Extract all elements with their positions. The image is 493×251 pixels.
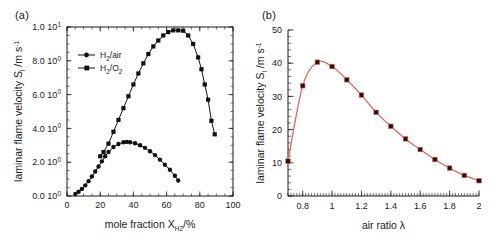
- data-point: [86, 179, 90, 183]
- data-point: [203, 82, 207, 86]
- data-point: [389, 124, 394, 129]
- y-tick-exponent: 1: [57, 21, 61, 28]
- panel-b-label: (b): [262, 9, 276, 21]
- data-point: [116, 118, 120, 122]
- data-point: [131, 82, 135, 86]
- y-axis-title: laminar flame velocity Sl /m s-1: [12, 41, 26, 182]
- x-axis-title: mole fraction XH2/%: [105, 218, 196, 232]
- x-tick-label: 80: [195, 200, 205, 210]
- data-point: [176, 178, 180, 182]
- data-point: [161, 33, 165, 37]
- panel-a-label: (a): [15, 9, 29, 21]
- y-tick-exponent: 0: [57, 55, 61, 62]
- data-point: [176, 28, 180, 32]
- legend-marker-1: [84, 66, 89, 71]
- x-tick-label: 2: [476, 201, 481, 211]
- x-tick-label: 20: [95, 200, 105, 210]
- data-point: [344, 78, 349, 83]
- x-tick-label: 0.8: [296, 201, 309, 211]
- data-point: [186, 33, 190, 37]
- x-tick-label: 60: [162, 200, 172, 210]
- data-point: [173, 174, 177, 178]
- data-point: [103, 154, 107, 158]
- y-tick-label: 0.0 100: [32, 190, 61, 202]
- data-point: [163, 163, 167, 167]
- data-point: [76, 190, 80, 194]
- series-line: [288, 61, 479, 181]
- series-line-H2/air: [75, 142, 178, 194]
- data-point: [330, 64, 335, 69]
- x-tick-label: 0: [64, 200, 69, 210]
- data-point: [146, 52, 150, 56]
- x-axis-title: air ratio λ: [362, 219, 406, 231]
- x-tick-label: 1.6: [414, 201, 427, 211]
- data-point: [141, 61, 145, 65]
- x-tick-label: 1.8: [443, 201, 456, 211]
- x-tick-label: 1.2: [355, 201, 368, 211]
- data-point: [286, 159, 291, 164]
- data-point: [121, 106, 125, 110]
- data-point: [206, 98, 210, 102]
- legend-tail: /air: [110, 50, 122, 60]
- data-point: [90, 174, 94, 178]
- data-point: [143, 146, 147, 150]
- data-point: [191, 42, 195, 46]
- y-tick-label: 4.0 100: [32, 122, 61, 134]
- data-point: [477, 178, 482, 183]
- data-point: [156, 38, 160, 42]
- legend-sub2: 2: [119, 68, 123, 75]
- data-point: [106, 142, 110, 146]
- x-tick-label: 100: [225, 200, 240, 210]
- data-point: [462, 173, 467, 178]
- y-axis-title-tail: /m s: [254, 48, 266, 71]
- data-point: [136, 71, 140, 75]
- data-point: [213, 132, 217, 136]
- panel-a-plot: 0204060801000.0 1002.0 1004.0 1006.0 100…: [0, 0, 247, 251]
- data-point: [433, 157, 438, 162]
- y-tick-label: 10: [272, 158, 282, 168]
- legend-label-h2-air: H2/air: [100, 50, 122, 62]
- legend-tail: /O: [110, 63, 119, 73]
- y-axis-title-tail: /m s: [12, 47, 24, 70]
- data-point: [138, 143, 142, 147]
- data-point: [158, 157, 162, 161]
- y-tick-label: 6.0 100: [32, 88, 61, 100]
- y-tick-label: 40: [272, 58, 282, 68]
- x-tick-label: 1.4: [385, 201, 398, 211]
- data-point: [447, 166, 452, 171]
- data-point: [153, 153, 157, 157]
- data-point: [111, 130, 115, 134]
- data-point: [168, 168, 172, 172]
- y-tick-label: 30: [272, 92, 282, 102]
- legend-marker-0: [84, 53, 89, 58]
- data-point: [100, 159, 104, 163]
- data-point: [106, 150, 110, 154]
- data-point: [209, 119, 213, 123]
- y-axis-title-sup: -1: [13, 41, 20, 47]
- data-point: [300, 83, 305, 88]
- y-tick-label: 50: [272, 25, 282, 35]
- data-point: [171, 28, 175, 32]
- data-point: [96, 164, 100, 168]
- y-axis-title-sup: -1: [255, 42, 262, 48]
- data-point: [359, 93, 364, 98]
- data-point: [148, 149, 152, 153]
- y-tick-exponent: 0: [57, 156, 61, 163]
- data-point: [93, 169, 97, 173]
- data-point: [116, 142, 120, 146]
- data-point: [80, 187, 84, 191]
- data-point: [418, 147, 423, 152]
- y-tick-label: 20: [272, 125, 282, 135]
- y-tick-label: 8.0 100: [32, 55, 61, 67]
- x-axis-title-tail: /%: [183, 218, 195, 230]
- data-point: [151, 44, 155, 48]
- data-point: [315, 60, 320, 65]
- data-point: [111, 145, 115, 149]
- panel-b-plot: 0.811.21.41.61.8201020304050air ratio λl…: [246, 0, 493, 251]
- y-tick-label: 1.0 101: [32, 21, 61, 33]
- x-tick-label: 40: [128, 200, 138, 210]
- figure-container: (a) 0204060801000.0 1002.0 1004.0 1006.0…: [0, 0, 493, 251]
- data-point: [83, 183, 87, 187]
- y-tick-exponent: 0: [57, 190, 61, 197]
- y-tick-exponent: 0: [57, 88, 61, 95]
